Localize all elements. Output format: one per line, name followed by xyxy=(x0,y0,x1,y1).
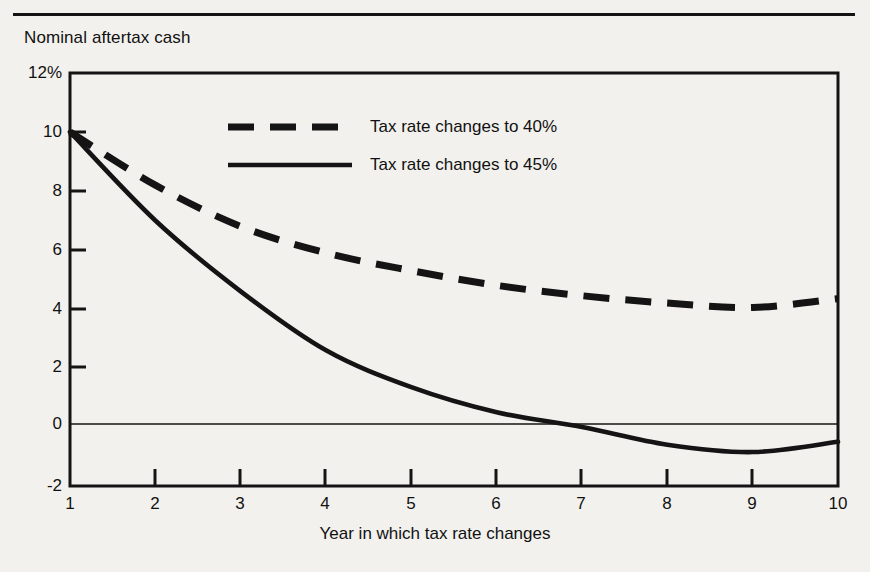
x-tick-label-2: 2 xyxy=(150,494,159,514)
x-tick-label-4: 4 xyxy=(320,494,329,514)
y-tick-label-4: 4 xyxy=(8,299,62,319)
x-tick-label-6: 6 xyxy=(491,494,500,514)
y-tick-label-8: 8 xyxy=(8,181,62,201)
legend-label-tax-rate-45: Tax rate changes to 45% xyxy=(370,155,557,175)
x-tick-label-3: 3 xyxy=(235,494,244,514)
y-tick-label-minus-2: -2 xyxy=(8,476,62,496)
x-tick-label-5: 5 xyxy=(406,494,415,514)
y-tick-label-10: 10 xyxy=(8,122,62,142)
y-tick-label-12: 12% xyxy=(8,63,62,83)
y-tick-marks xyxy=(70,132,86,367)
x-axis-title: Year in which tax rate changes xyxy=(0,524,870,544)
series-line-tax-rate-45 xyxy=(70,132,838,452)
chart-figure: Nominal aftertax cash xyxy=(0,0,870,572)
y-tick-label-0: 0 xyxy=(8,414,62,434)
x-tick-marks xyxy=(155,469,752,486)
x-tick-label-7: 7 xyxy=(576,494,585,514)
y-tick-label-6: 6 xyxy=(8,240,62,260)
plot-area xyxy=(0,0,870,572)
x-tick-label-10: 10 xyxy=(829,494,848,514)
x-tick-label-8: 8 xyxy=(662,494,671,514)
y-tick-label-2: 2 xyxy=(8,357,62,377)
legend-label-tax-rate-40: Tax rate changes to 40% xyxy=(370,117,557,137)
x-tick-label-1: 1 xyxy=(65,494,74,514)
x-tick-label-9: 9 xyxy=(747,494,756,514)
